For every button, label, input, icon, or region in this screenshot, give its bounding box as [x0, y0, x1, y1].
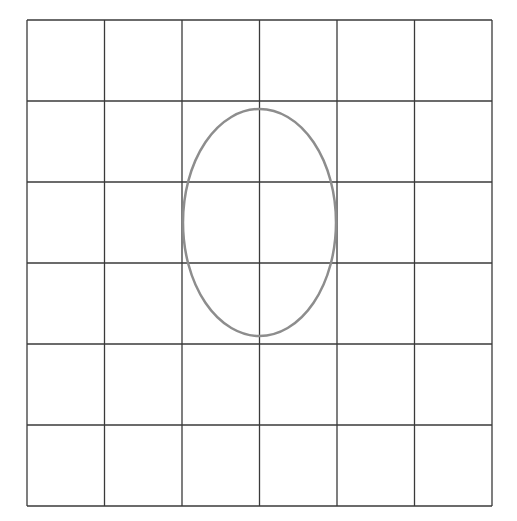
grid-ellipse-figure: [0, 0, 517, 521]
figure-canvas: [0, 0, 517, 521]
